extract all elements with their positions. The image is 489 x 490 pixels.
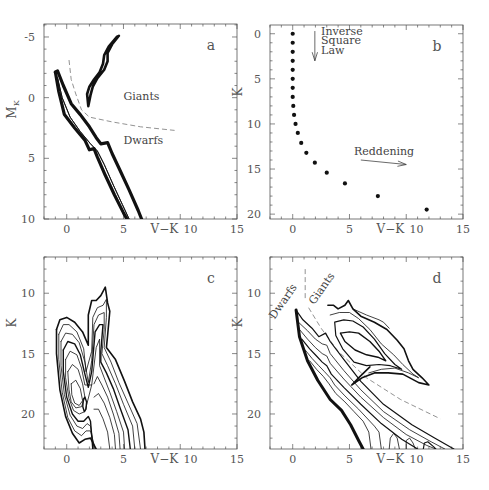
annotation-giants: Giants bbox=[306, 270, 338, 307]
y-tick-label: 10 bbox=[21, 213, 35, 226]
y-tick-label: 5 bbox=[28, 152, 35, 165]
data-point bbox=[291, 59, 295, 63]
giant-outer-curve bbox=[328, 301, 429, 386]
x-tick-label: 5 bbox=[120, 223, 127, 236]
x-axis-label: V−K bbox=[149, 452, 179, 466]
annotation-reddening: Reddening bbox=[354, 145, 414, 158]
y-tick-label: 10 bbox=[21, 287, 35, 300]
data-point bbox=[425, 208, 429, 212]
y-axis-label: MK bbox=[5, 99, 21, 118]
data-point bbox=[299, 141, 303, 145]
dwarf-contour-4-curve bbox=[302, 339, 418, 449]
plot-frame bbox=[270, 25, 463, 219]
plot-area bbox=[291, 32, 429, 212]
y-tick-label: 15 bbox=[247, 348, 261, 361]
data-point bbox=[291, 68, 295, 72]
x-tick-label: 5 bbox=[120, 453, 127, 466]
y-axis-label: K bbox=[231, 317, 245, 327]
y-tick-label: 5 bbox=[254, 73, 261, 86]
data-point bbox=[296, 131, 300, 135]
figure-canvas: 0515V−K10-50510MKaGiantsDwarfs 0515V−K10… bbox=[0, 0, 489, 490]
dwarf-contour-3-curve bbox=[300, 330, 436, 450]
contour-6-right-curve bbox=[94, 377, 120, 450]
x-tick-label: 15 bbox=[456, 223, 470, 236]
y-tick-label: 0 bbox=[28, 92, 35, 105]
contour-4-curve bbox=[63, 325, 130, 449]
data-point bbox=[292, 113, 296, 117]
x-tick-label: 0 bbox=[289, 223, 296, 236]
y-tick-label: 20 bbox=[247, 408, 261, 421]
x-tick-label: 0 bbox=[63, 453, 70, 466]
x-tick-label: 10 bbox=[183, 223, 197, 236]
contour-peak-right-curve bbox=[94, 409, 110, 449]
panel-letter: d bbox=[433, 270, 442, 286]
data-point bbox=[291, 86, 295, 90]
data-point bbox=[291, 32, 295, 36]
data-point bbox=[376, 194, 380, 198]
y-tick-label: 15 bbox=[21, 348, 35, 361]
x-tick-label: 10 bbox=[409, 453, 423, 466]
y-tick-label: -5 bbox=[24, 31, 35, 44]
panel-letter: c bbox=[207, 270, 215, 286]
giant-branch-outer-curve bbox=[87, 36, 119, 106]
contour-7-right-curve bbox=[94, 394, 116, 450]
panel-b: 0515V−K1005101520KbInverseSquareLawRedde… bbox=[231, 25, 470, 236]
contour-peak-left-curve bbox=[83, 397, 87, 412]
y-axis-label: K bbox=[231, 86, 245, 96]
y-tick-label: 15 bbox=[247, 163, 261, 176]
panel-letter: a bbox=[207, 37, 215, 53]
plot-area bbox=[57, 287, 146, 449]
reddening-arrow bbox=[361, 160, 406, 165]
plot-area bbox=[55, 36, 174, 219]
x-tick-label: 0 bbox=[63, 223, 70, 236]
dwarf-edge-curve bbox=[296, 310, 363, 449]
contour-2-curve bbox=[59, 299, 141, 449]
data-point bbox=[291, 95, 295, 99]
data-point bbox=[291, 50, 295, 54]
x-tick-label: 10 bbox=[409, 223, 423, 236]
panel-d: 0515V−K10101520KdDwarfsGiants bbox=[231, 257, 470, 466]
y-tick-label: 20 bbox=[247, 208, 261, 221]
x-tick-label: 10 bbox=[183, 453, 197, 466]
panel-letter: b bbox=[433, 38, 442, 54]
x-tick-label: 15 bbox=[230, 453, 244, 466]
data-point bbox=[325, 171, 329, 175]
x-axis-label: V−K bbox=[375, 222, 405, 236]
data-point bbox=[313, 161, 317, 165]
data-point bbox=[291, 104, 295, 108]
x-tick-label: 0 bbox=[289, 453, 296, 466]
y-tick-label: 10 bbox=[247, 118, 261, 131]
data-point bbox=[304, 151, 308, 155]
dwarf-contour-1-curve bbox=[296, 310, 454, 449]
data-point bbox=[293, 122, 297, 126]
x-tick-label: 5 bbox=[346, 223, 353, 236]
x-tick-label: 5 bbox=[346, 453, 353, 466]
x-tick-label: 15 bbox=[230, 223, 244, 236]
x-tick-label: 15 bbox=[456, 453, 470, 466]
giant-inner-2-curve bbox=[335, 320, 402, 370]
panel-a: 0515V−K10-50510MKaGiantsDwarfs bbox=[5, 24, 244, 236]
data-point bbox=[291, 41, 295, 45]
panel-c: 0515V−K10101520Kc bbox=[5, 257, 244, 466]
y-tick-label: 10 bbox=[247, 287, 261, 300]
x-axis-label: V−K bbox=[149, 222, 179, 236]
y-tick-label: 0 bbox=[254, 28, 261, 41]
data-point bbox=[291, 77, 295, 81]
dwarf-giant-divider-diagonal-dashed-line bbox=[309, 308, 441, 419]
y-tick-label: 20 bbox=[21, 408, 35, 421]
x-axis-label: V−K bbox=[375, 452, 405, 466]
annotation-law: Law bbox=[321, 44, 345, 57]
contour-7-curve bbox=[71, 380, 82, 405]
annotation-dwarfs: Dwarfs bbox=[266, 281, 300, 321]
y-axis-label: K bbox=[5, 317, 19, 327]
annotation-dwarfs: Dwarfs bbox=[123, 134, 163, 147]
data-point bbox=[343, 181, 347, 185]
annotation-giants: Giants bbox=[123, 90, 159, 103]
